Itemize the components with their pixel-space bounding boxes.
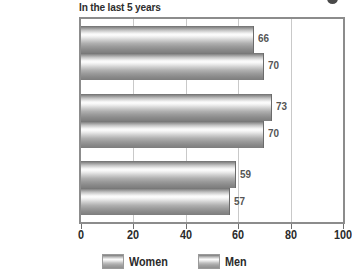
value-label-men-0: 70 <box>268 59 279 71</box>
bar-men-2 <box>81 188 230 215</box>
legend-swatch-men-icon <box>198 254 220 269</box>
value-label-men-1: 70 <box>268 127 279 139</box>
cropped-glyph-artifact <box>327 0 338 4</box>
bar-women-2 <box>81 161 236 188</box>
gridline-80 <box>291 19 292 222</box>
bar-men-1 <box>81 121 264 148</box>
x-tick-label-60: 60 <box>232 228 244 242</box>
legend-item-men[interactable]: Men <box>198 254 249 269</box>
x-tick-label-100: 100 <box>334 228 352 242</box>
x-tick-label-20: 20 <box>127 228 139 242</box>
bar-men-0 <box>81 53 264 80</box>
plot-area <box>79 17 345 224</box>
value-label-men-2: 57 <box>234 195 245 207</box>
chart-title: In the last 5 years <box>79 1 161 13</box>
legend-label-men: Men <box>225 255 247 269</box>
legend-item-women[interactable]: Women <box>102 254 172 269</box>
value-label-women-1: 73 <box>276 100 287 112</box>
x-tick-label-80: 80 <box>285 228 297 242</box>
bar-women-1 <box>81 94 272 121</box>
bar-women-0 <box>81 26 254 53</box>
legend: Women Men <box>0 254 351 269</box>
legend-label-women: Women <box>129 255 168 269</box>
x-tick-label-40: 40 <box>180 228 192 242</box>
legend-swatch-women-icon <box>102 254 124 269</box>
x-tick-label-0: 0 <box>78 228 84 242</box>
plot-inner <box>81 19 343 222</box>
value-label-women-0: 66 <box>258 32 269 44</box>
value-label-women-2: 59 <box>240 168 251 180</box>
